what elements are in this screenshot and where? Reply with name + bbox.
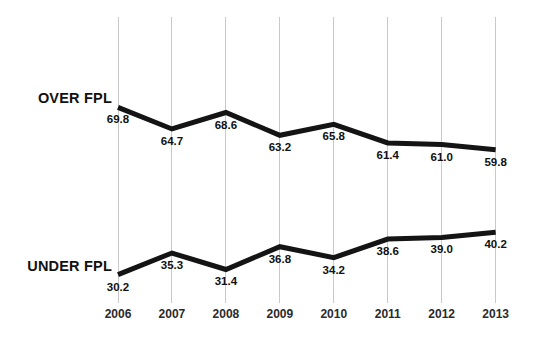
point-label-under-2013: 40.2 — [484, 238, 506, 250]
point-label-over-2009: 63.2 — [269, 141, 291, 153]
x-tick-2006: 2006 — [105, 307, 132, 321]
x-tick-2008: 2008 — [213, 307, 240, 321]
point-label-over-2007: 64.7 — [161, 135, 183, 147]
x-tick-2009: 2009 — [266, 307, 293, 321]
point-label-over-2013: 59.8 — [484, 156, 507, 168]
series-label-under-fpl: UNDER FPL — [27, 258, 112, 274]
series-label-over-fpl: OVER FPL — [38, 90, 112, 106]
point-label-under-2009: 36.8 — [269, 253, 292, 265]
x-tick-2007: 2007 — [159, 307, 186, 321]
series-name-group: OVER FPLUNDER FPL — [27, 90, 112, 273]
x-tick-2013: 2013 — [482, 307, 509, 321]
point-label-under-2012: 39.0 — [431, 243, 453, 255]
point-label-over-2008: 68.6 — [215, 119, 237, 131]
chart-canvas: OVER FPLUNDER FPL 69.864.768.663.265.861… — [0, 0, 539, 344]
point-label-over-2010: 65.8 — [323, 130, 346, 142]
point-label-over-2006: 69.8 — [107, 113, 130, 125]
x-tick-2010: 2010 — [320, 307, 347, 321]
point-label-over-2012: 61.0 — [431, 151, 453, 163]
x-tick-2011: 2011 — [375, 307, 401, 321]
point-label-over-2011: 61.4 — [377, 149, 400, 161]
point-label-under-2011: 38.6 — [377, 245, 399, 257]
x-tick-2012: 2012 — [428, 307, 455, 321]
point-label-under-2006: 30.2 — [107, 281, 129, 293]
point-label-under-2007: 35.3 — [161, 259, 183, 271]
point-label-under-2010: 34.2 — [323, 264, 345, 276]
point-label-under-2008: 31.4 — [215, 275, 238, 287]
x-axis-tick-labels: 20062007200820092010201120122013 — [105, 307, 510, 321]
point-labels-group: 69.864.768.663.265.861.461.059.830.235.3… — [107, 113, 508, 292]
line-chart: OVER FPLUNDER FPL 69.864.768.663.265.861… — [0, 0, 539, 344]
